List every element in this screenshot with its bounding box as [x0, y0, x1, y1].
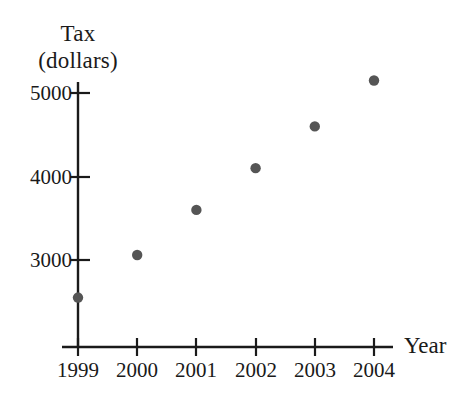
data-point-2002 — [250, 163, 260, 173]
y-tick-label-3000: 3000 — [0, 250, 72, 271]
y-tick-label-4000: 4000 — [0, 167, 72, 188]
plot-area — [0, 0, 474, 397]
data-point-2001 — [191, 205, 201, 215]
x-tick-label-2003: 2003 — [284, 360, 346, 381]
x-tick-label-2000: 2000 — [106, 360, 168, 381]
data-point-2003 — [310, 121, 320, 131]
y-tick-label-5000: 5000 — [0, 83, 72, 104]
x-tick-label-2002: 2002 — [225, 360, 287, 381]
x-tick-label-1999: 1999 — [47, 360, 109, 381]
scatter-plot-figure: Tax (dollars) Year 3000 4000 5000 — [0, 0, 474, 397]
data-point-markers — [73, 75, 379, 302]
x-tick-label-2004: 2004 — [343, 360, 405, 381]
data-point-1999 — [73, 292, 83, 302]
data-point-2004 — [369, 75, 379, 85]
data-point-2000 — [132, 250, 142, 260]
x-tick-label-2001: 2001 — [165, 360, 227, 381]
y-axis-tick-marks — [70, 93, 90, 260]
